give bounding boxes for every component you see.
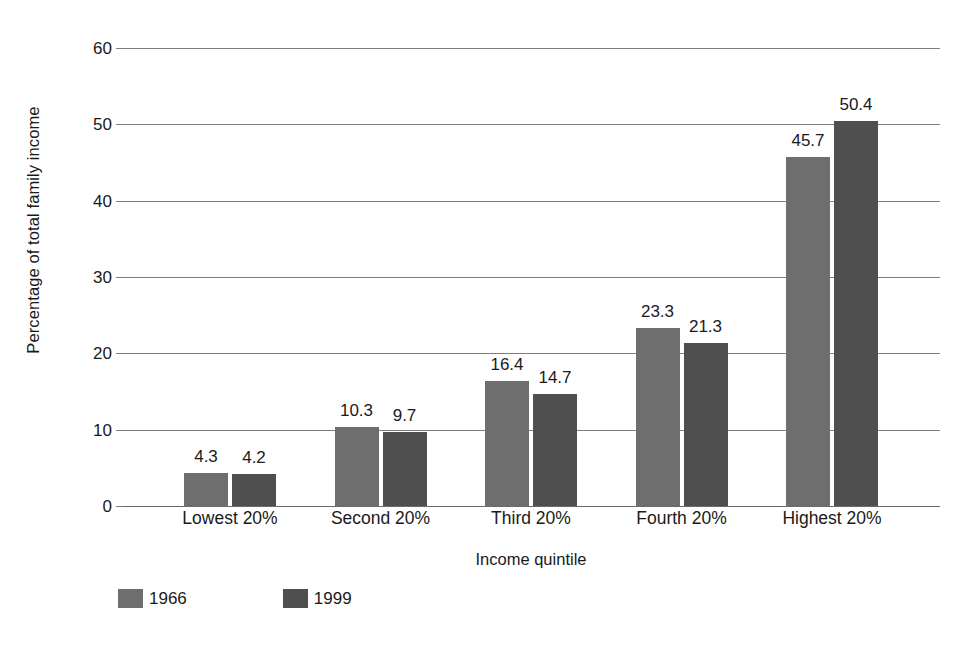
bar-value-label: 4.2 — [219, 449, 289, 466]
bar[interactable] — [485, 381, 529, 506]
y-axis-tick-labels: 0102030405060 — [52, 48, 112, 506]
bar[interactable] — [383, 432, 427, 506]
y-axis-tick-label: 10 — [52, 422, 112, 439]
bar[interactable] — [232, 474, 276, 506]
x-axis-title: Income quintile — [122, 550, 940, 569]
y-axis-tick-label: 50 — [52, 116, 112, 133]
y-axis-tick-label: 60 — [52, 40, 112, 57]
bar-value-label: 9.7 — [370, 407, 440, 424]
y-axis-tick-label: 20 — [52, 345, 112, 362]
y-axis-tick-label: 30 — [52, 269, 112, 286]
bar-group: 4.34.2Lowest 20% — [184, 48, 276, 506]
bar-chart: Percentage of total family income 010203… — [0, 0, 962, 668]
legend-label: 1966 — [149, 590, 187, 607]
bar[interactable] — [834, 121, 878, 506]
bar[interactable] — [786, 157, 830, 506]
bar[interactable] — [636, 328, 680, 506]
bar-value-label: 21.3 — [671, 318, 741, 335]
legend-swatch — [283, 589, 308, 608]
bar-value-label: 45.7 — [773, 132, 843, 149]
legend-item[interactable]: 1999 — [283, 589, 352, 608]
bar-group: 10.39.7Second 20% — [335, 48, 427, 506]
bar[interactable] — [684, 343, 728, 506]
legend-item[interactable]: 1966 — [118, 589, 187, 608]
y-axis-tick-label: 0 — [52, 498, 112, 515]
gridline — [122, 506, 940, 507]
legend: 19661999 — [118, 589, 448, 608]
legend-swatch — [118, 589, 143, 608]
bar[interactable] — [335, 427, 379, 506]
bar-group: 45.750.4Highest 20% — [786, 48, 878, 506]
plot-area: 4.34.2Lowest 20%10.39.7Second 20%16.414.… — [122, 48, 940, 506]
bar-group: 23.321.3Fourth 20% — [636, 48, 728, 506]
bar-value-label: 14.7 — [520, 369, 590, 386]
y-axis-title: Percentage of total family income — [24, 0, 50, 460]
bar-value-label: 50.4 — [821, 96, 891, 113]
bar-group: 16.414.7Third 20% — [485, 48, 577, 506]
x-axis-category-label: Highest 20% — [732, 510, 932, 528]
bar[interactable] — [533, 394, 577, 506]
bar[interactable] — [184, 473, 228, 506]
y-axis-tick-label: 40 — [52, 193, 112, 210]
legend-label: 1999 — [314, 590, 352, 607]
